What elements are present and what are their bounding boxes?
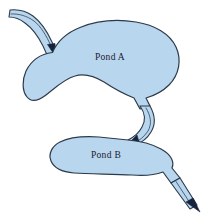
pond-diagram-canvas: Pond A Pond B <box>0 0 208 219</box>
pond-diagram: Pond A Pond B <box>0 0 208 219</box>
inlet-stream-band <box>9 10 57 57</box>
pond-a-label: Pond A <box>95 52 125 62</box>
pond-b-label: Pond B <box>91 150 121 160</box>
